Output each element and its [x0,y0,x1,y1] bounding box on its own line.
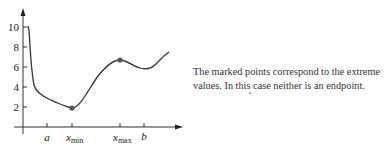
y-tick-label: 10 [8,21,20,33]
x-axis [14,125,183,130]
maximum-point [117,57,122,62]
function-curve [28,26,169,108]
x-tick-label-xmin: xmin [65,131,83,145]
minimum-point [69,105,74,110]
y-axis-arrow-icon [21,8,26,16]
x-tick-label-b: b [141,130,147,142]
caption-line-2: values. In this case neither is an endpo… [193,79,388,93]
x-tick-label-a: a [44,131,50,143]
y-tick-label: 8 [14,41,20,53]
y-ticks: 10 8 6 4 2 [8,21,27,113]
x-ticks: a xmin xmax b [44,123,147,145]
x-axis-arrow-icon [175,125,183,130]
function-graph: 10 8 6 4 2 a xmin xmax b [0,0,190,151]
y-tick-label: 6 [14,61,20,73]
caption-line-1: The marked points correspond to the extr… [193,65,388,79]
stray-dot [249,92,251,94]
x-tick-label-xmax: xmax [112,131,132,145]
figure-caption: The marked points correspond to the extr… [193,65,388,93]
y-tick-label: 4 [14,81,20,93]
y-tick-label: 2 [14,101,20,113]
